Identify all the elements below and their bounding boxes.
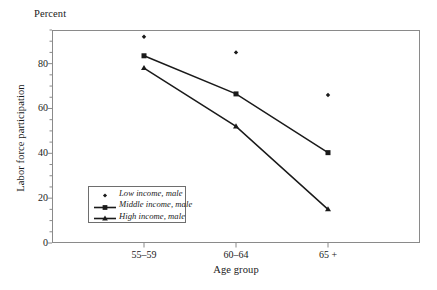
legend-label: Middle income, male — [119, 199, 192, 209]
legend-key-triangle-icon — [91, 210, 119, 221]
marker-square — [142, 53, 147, 58]
chart-legend: Low income, maleMiddle income, maleHigh … — [88, 186, 186, 223]
chart-figure: Percent Labor force participation 020406… — [0, 0, 437, 290]
marker-square — [326, 150, 331, 155]
marker-diamond — [142, 35, 146, 39]
legend-label: Low income, male — [119, 188, 183, 198]
legend-item[interactable]: Middle income, male — [89, 199, 185, 211]
marker-square — [234, 91, 239, 96]
legend-item[interactable]: Low income, male — [89, 187, 185, 199]
marker-diamond — [326, 93, 330, 97]
legend-key-square-icon — [91, 199, 119, 210]
plot-graphics — [0, 0, 437, 290]
x-axis-title: Age group — [52, 264, 420, 275]
marker-diamond — [234, 50, 238, 54]
legend-label: High income, male — [119, 211, 185, 221]
legend-key-graphic — [91, 213, 119, 224]
marker-triangle — [141, 65, 147, 70]
series-line — [144, 56, 328, 153]
marker-diamond — [103, 194, 107, 198]
marker-square — [103, 205, 108, 210]
legend-item[interactable]: High income, male — [89, 210, 185, 222]
legend-key-diamond-icon — [91, 187, 119, 198]
